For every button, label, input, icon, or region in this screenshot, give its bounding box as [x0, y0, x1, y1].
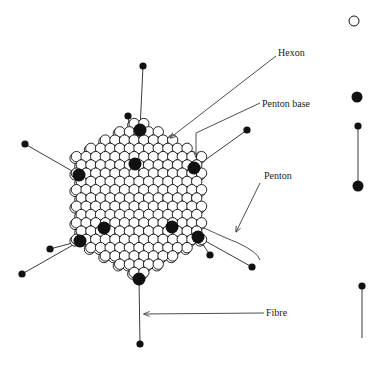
fibre-leader	[144, 313, 264, 314]
fibre-knob	[243, 126, 250, 133]
label-penton-base: Penton base	[262, 99, 310, 109]
penton-base	[98, 222, 111, 235]
fibre-legend-knob	[358, 282, 365, 289]
penton-base	[73, 169, 86, 182]
penton-legend-icon	[353, 122, 364, 191]
penton-leader	[236, 183, 260, 232]
fibre-knob	[206, 251, 213, 258]
fibre-knob	[139, 62, 146, 69]
label-hexon: Hexon	[278, 48, 305, 58]
penton-base	[188, 162, 201, 175]
diagram-canvas	[0, 0, 387, 366]
penton-base	[129, 158, 142, 171]
hexon	[167, 251, 177, 261]
penton-base	[192, 231, 205, 244]
fibre-knob	[21, 140, 28, 147]
penton-base	[74, 235, 87, 248]
hexon	[153, 259, 163, 269]
fibre-knob	[248, 263, 255, 270]
penton-base-legend-icon	[352, 92, 363, 103]
fibre-knob	[18, 270, 25, 277]
hexon-leader	[170, 56, 276, 138]
hexon	[86, 242, 96, 252]
penton-base	[134, 124, 147, 137]
fibre-knob	[136, 340, 143, 347]
penton-legend-base	[353, 181, 364, 192]
adenovirus-diagram: Hexon Penton base Penton Fibre	[0, 0, 387, 366]
fibre-shaft	[139, 279, 140, 344]
label-penton: Penton	[264, 171, 292, 181]
penton-base	[133, 273, 146, 286]
hexon	[182, 242, 192, 252]
penton-legend-knob	[354, 122, 361, 129]
fibre-legend-icon	[358, 282, 365, 338]
hexon-legend-icon	[349, 16, 359, 26]
capsid-group	[70, 118, 207, 279]
hexon	[115, 259, 125, 269]
fibre-knob	[46, 245, 53, 252]
label-fibre: Fibre	[266, 308, 287, 318]
hexon	[100, 251, 110, 261]
legend-group	[349, 16, 366, 338]
fibre-knob	[124, 112, 131, 119]
penton-base	[166, 221, 179, 234]
